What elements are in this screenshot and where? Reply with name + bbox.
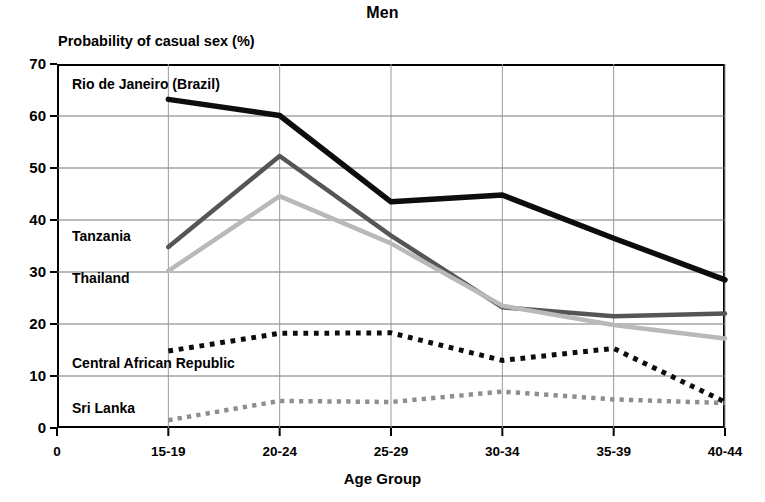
y-tick-label: 40 — [0, 212, 46, 227]
y-tick-label: 50 — [0, 160, 46, 175]
y-tick-label: 30 — [0, 264, 46, 279]
chart-title: Men — [0, 4, 765, 22]
y-tick-label: 20 — [0, 316, 46, 331]
series-label: Sri Lanka — [72, 400, 135, 416]
chart-container: Men Probability of casual sex (%) 010203… — [0, 0, 765, 502]
x-tick-label: 25-29 — [374, 444, 409, 459]
x-tick-label: 30-34 — [485, 444, 520, 459]
y-tick-label: 70 — [0, 56, 46, 71]
x-tick-label: 35-39 — [596, 444, 631, 459]
series-label: Central African Republic — [72, 355, 235, 371]
x-tick-label: 15-19 — [151, 444, 186, 459]
y-tick-label: 0 — [0, 420, 46, 435]
x-tick-label: 40-44 — [708, 444, 743, 459]
x-tick-label: 0 — [53, 444, 61, 459]
y-axis-title: Probability of casual sex (%) — [58, 33, 255, 49]
plot-area — [57, 64, 725, 428]
series-label: Rio de Janeiro (Brazil) — [72, 76, 220, 92]
y-tick-label: 60 — [0, 108, 46, 123]
x-tick-label: 20-24 — [262, 444, 297, 459]
y-tick-label: 10 — [0, 368, 46, 383]
series-label: Thailand — [72, 270, 130, 286]
x-axis-title: Age Group — [0, 470, 765, 487]
series-label: Tanzania — [72, 228, 131, 244]
